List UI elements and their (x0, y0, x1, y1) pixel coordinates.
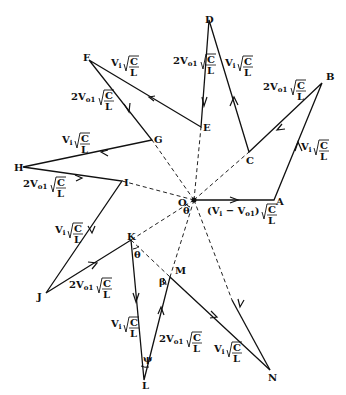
svg-text:L: L (105, 101, 112, 112)
svg-text:L: L (74, 234, 81, 245)
svg-text:L: L (244, 67, 251, 78)
label-a: A (275, 196, 284, 207)
label-gh: Vi C L (61, 133, 90, 155)
svg-text:C: C (105, 90, 113, 101)
svg-text:L: L (193, 343, 200, 354)
svg-text:C: C (103, 278, 111, 289)
svg-text:C: C (130, 317, 138, 328)
svg-text:2Vo1: 2Vo1 (71, 91, 95, 104)
svg-text:C: C (57, 177, 65, 188)
svg-text:C: C (74, 223, 82, 234)
svg-text:C: C (233, 342, 241, 353)
svg-text:C: C (81, 133, 89, 144)
radius-oe (194, 127, 201, 200)
arrow-icon (238, 299, 244, 307)
origin-dot (192, 198, 197, 203)
svg-text:L: L (103, 289, 110, 300)
label-hi: 2Vo1 C L (23, 177, 66, 199)
vo-labels: 2Vo1 C L 2Vo1 C L 2Vo1 C L 2Vo1 C L (23, 54, 306, 354)
beta-label-m: β (159, 276, 166, 287)
label-kl: Vi C L (110, 317, 139, 339)
svg-text:L: L (320, 151, 327, 162)
label-h: H (14, 162, 23, 173)
label-k: K (127, 231, 136, 242)
svg-text:Vi: Vi (213, 343, 225, 356)
label-cd: Vi C L (224, 56, 253, 78)
svg-text:C: C (193, 332, 201, 343)
svg-text:L: L (57, 188, 64, 199)
label-de: 2Vo1 C L (173, 54, 216, 76)
label-c: C (246, 155, 254, 166)
label-n: N (268, 372, 277, 383)
label-ab: Vi C L (300, 140, 329, 162)
label-d: D (205, 14, 214, 25)
svg-text:C: C (207, 54, 215, 65)
svg-text:C: C (244, 56, 252, 67)
svg-text:C: C (130, 56, 138, 67)
svg-text:2Vo1: 2Vo1 (159, 333, 183, 346)
label-oa: (Vi − Vo1) C L (207, 204, 277, 226)
svg-text:L: L (130, 67, 137, 78)
svg-text:2Vo1: 2Vo1 (69, 279, 93, 292)
label-bc: 2Vo1 C L (263, 80, 306, 102)
svg-text:C: C (268, 204, 276, 215)
svg-text:Vi: Vi (110, 318, 122, 331)
svg-text:C: C (320, 140, 328, 151)
svg-text:Vi: Vi (110, 57, 122, 70)
svg-text:L: L (207, 65, 214, 76)
svg-text:Vi: Vi (300, 141, 312, 154)
label-f: F (83, 52, 90, 63)
label-i: I (124, 177, 129, 188)
svg-text:L: L (297, 91, 304, 102)
label-j: J (36, 291, 42, 302)
label-e: E (203, 122, 211, 133)
svg-text:2Vo1: 2Vo1 (173, 55, 197, 68)
label-lm: 2Vo1 C L (159, 332, 202, 354)
theta-label-k: θ (134, 249, 141, 260)
svg-text:Vi: Vi (224, 57, 236, 70)
radius-oc (194, 152, 249, 200)
svg-text:L: L (81, 144, 88, 155)
svg-text:Vi: Vi (54, 224, 66, 237)
label-l: L (142, 380, 149, 391)
label-mn: Vi C L (213, 342, 242, 364)
svg-text:L: L (130, 328, 137, 339)
svg-text:L: L (233, 353, 240, 364)
svg-text:2Vo1: 2Vo1 (23, 178, 47, 191)
svg-text:L: L (268, 215, 275, 226)
psi-label-l: ψ (143, 353, 152, 364)
svg-text:(Vi − Vo1): (Vi − Vo1) (207, 205, 260, 218)
svg-text:C: C (297, 80, 305, 91)
point-labels: O A B C D E F G H I J K L M N (14, 14, 334, 391)
svg-text:Vi: Vi (61, 134, 73, 147)
state-plane-diagram: O A B C D E F G H I J K L M N θ θ β ψ Vi… (0, 0, 346, 395)
label-ij: Vi C L (54, 223, 83, 245)
label-m: M (175, 265, 186, 276)
label-fg: 2Vo1 C L (71, 90, 114, 112)
svg-text:2Vo1: 2Vo1 (263, 81, 287, 94)
label-jk: 2Vo1 C L (69, 278, 112, 300)
label-b: B (326, 71, 334, 82)
theta-label-o: θ (183, 205, 190, 216)
arrow-icon (75, 175, 82, 181)
label-g: G (154, 134, 163, 145)
